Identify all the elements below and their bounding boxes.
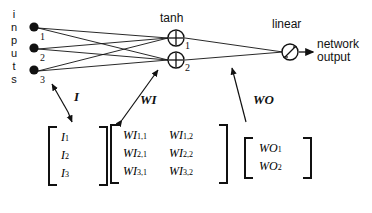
cell-sub: 3	[65, 170, 69, 179]
input-node-2	[29, 43, 38, 52]
input-node-1-label: 1	[40, 31, 45, 42]
cell-sub: 2,2	[183, 150, 193, 159]
matrix-cell: I1	[61, 129, 95, 147]
bracket-left	[244, 137, 253, 179]
matrix-cell: I2	[61, 147, 95, 165]
matrix-output-weights: WO1 WO2	[244, 137, 312, 179]
cell-base: WO	[259, 141, 278, 155]
cell-sub: 1,1	[137, 132, 147, 141]
bracket-left	[48, 126, 57, 186]
matrix-row: I1	[61, 129, 95, 147]
input-vector-arrow-label: I	[74, 89, 79, 105]
cell-sub: 1,2	[183, 132, 193, 141]
input-weight-arrow-label: WI	[140, 92, 157, 108]
cell-sub: 3,2	[183, 168, 193, 177]
network-output-label: network output	[317, 38, 359, 64]
matrix-input-weights: WI1,1 WI1,2 WI2,1 WI2,2 WI3,1 WI3,2	[110, 124, 228, 184]
matrix-cell: WI2,2	[169, 145, 215, 163]
matrix-row: WI1,1 WI1,2	[123, 127, 215, 145]
hidden-node-1-label: 1	[185, 40, 190, 51]
output-weight-arrow	[232, 68, 246, 122]
matrix-row: I2	[61, 147, 95, 165]
inputs-letter-5: s	[7, 73, 21, 86]
cell-sub: 1	[278, 145, 282, 154]
output-node	[282, 44, 298, 60]
matrix-cell: WI1,1	[123, 127, 169, 145]
cell-base: WI	[123, 128, 137, 142]
cell-sub: 2	[278, 163, 282, 172]
matrix-cell: WI3,1	[123, 163, 169, 181]
output-weight-arrow-label: WO	[253, 92, 274, 108]
matrix-row: WI2,1 WI2,2	[123, 145, 215, 163]
inputs-vertical-label: i n p u t s	[7, 8, 21, 86]
matrix-row: WO2	[259, 158, 297, 176]
cell-base: WO	[259, 159, 278, 173]
hidden-layer-title: tanh	[160, 11, 183, 25]
hidden-node-1	[168, 30, 184, 46]
matrix-input-vector: I1 I2 I3	[48, 126, 108, 186]
matrix-cell: WI2,1	[123, 145, 169, 163]
cell-base: WI	[169, 164, 183, 178]
matrix-row: WO1	[259, 140, 297, 158]
input-node-3-label: 3	[40, 74, 45, 85]
matrix-input-weights-rows: WI1,1 WI1,2 WI2,1 WI2,2 WI3,1 WI3,2	[119, 124, 219, 184]
input-node-1	[29, 22, 38, 31]
inputs-letter-0: i	[7, 8, 21, 21]
bracket-right	[99, 126, 108, 186]
matrix-cell: WI1,2	[169, 127, 215, 145]
input-node-3	[29, 65, 38, 74]
cell-base: WI	[169, 128, 183, 142]
cell-sub: 2	[65, 152, 69, 161]
input-vector-arrow	[52, 84, 72, 122]
cell-base: WI	[169, 146, 183, 160]
matrix-input-vector-rows: I1 I2 I3	[57, 126, 99, 186]
matrix-row: WI3,1 WI3,2	[123, 163, 215, 181]
matrix-cell: WO2	[259, 158, 297, 176]
hidden-to-output-connections	[185, 38, 283, 60]
inputs-letter-2: p	[7, 34, 21, 47]
cell-base: WI	[123, 164, 137, 178]
cell-sub: 2,1	[137, 150, 147, 159]
input-nodes	[29, 22, 38, 74]
input-to-hidden-connections	[38, 28, 168, 71]
hidden-node-2-label: 2	[185, 62, 190, 73]
cell-sub: 1	[65, 134, 69, 143]
output-layer-title: linear	[272, 17, 301, 31]
inputs-letter-3: u	[7, 47, 21, 60]
input-node-2-label: 2	[40, 52, 45, 63]
network-output-line2: output	[317, 51, 359, 64]
cell-sub: 3,1	[137, 168, 147, 177]
bracket-right	[219, 124, 228, 184]
matrix-row: I3	[61, 165, 95, 183]
matrix-cell: I3	[61, 165, 95, 183]
inputs-letter-1: n	[7, 21, 21, 34]
cell-base: WI	[123, 146, 137, 160]
matrix-cell: WI3,2	[169, 163, 215, 181]
bracket-left	[110, 124, 119, 184]
matrix-output-weights-rows: WO1 WO2	[253, 137, 303, 179]
hidden-node-2	[168, 52, 184, 68]
bracket-right	[303, 137, 312, 179]
matrix-cell: WO1	[259, 140, 297, 158]
inputs-letter-4: t	[7, 60, 21, 73]
